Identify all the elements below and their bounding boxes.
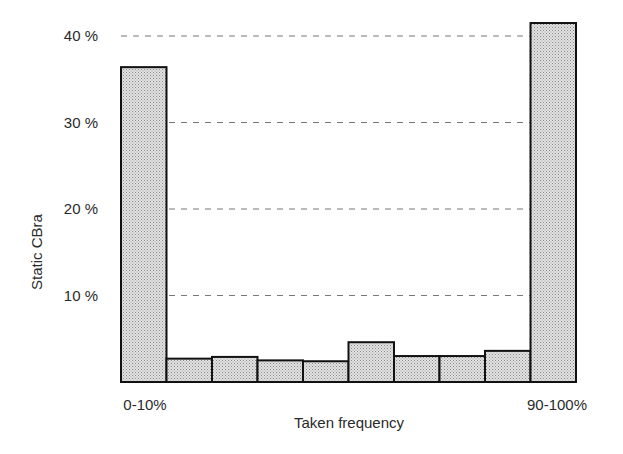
bar-70-80%	[440, 356, 486, 382]
x-tick-label: 0-10%	[123, 396, 166, 413]
histogram-chart: 10 %20 %30 %40 % 0-10%90-100% Static CBr…	[0, 0, 623, 454]
gridlines	[121, 36, 530, 296]
bar-40-50%	[303, 361, 349, 382]
y-axis-label: Static CBra	[28, 213, 45, 290]
x-axis-label: Taken frequency	[294, 414, 405, 431]
bar-30-40%	[258, 360, 304, 382]
bar-90-100%	[531, 23, 577, 382]
bar-50-60%	[349, 342, 395, 382]
y-tick-label: 20 %	[64, 200, 98, 217]
y-tick-label: 30 %	[64, 114, 98, 131]
y-tick-label: 40 %	[64, 27, 98, 44]
y-tick-label: 10 %	[64, 287, 98, 304]
bar-20-30%	[212, 357, 258, 382]
bars	[121, 23, 576, 382]
bar-80-90%	[485, 351, 531, 382]
x-axis-tick-labels: 0-10%90-100%	[123, 396, 587, 413]
bar-0-10%	[121, 67, 167, 382]
bar-60-70%	[394, 356, 440, 382]
x-tick-label: 90-100%	[527, 396, 587, 413]
y-axis-tick-labels: 10 %20 %30 %40 %	[64, 27, 98, 304]
bar-10-20%	[167, 359, 213, 382]
